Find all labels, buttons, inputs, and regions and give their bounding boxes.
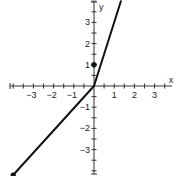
x-tick-label: 2 — [132, 90, 137, 100]
y-tick-label: 3 — [85, 17, 90, 27]
y-tick-label: −2 — [80, 123, 90, 133]
y-tick-label: 1 — [85, 60, 90, 70]
y-axis-label: y — [99, 2, 104, 12]
x-tick-label: −3 — [26, 90, 36, 100]
closed-point — [92, 62, 97, 67]
y-tick-label: 2 — [85, 39, 90, 49]
curves — [13, 1, 121, 175]
x-tick-label: −1 — [67, 90, 77, 100]
x-tick-label: 3 — [152, 90, 157, 100]
x-tick-label: −2 — [46, 90, 56, 100]
y-tick-label: −1 — [80, 102, 90, 112]
function-line — [94, 1, 121, 86]
function-graph: −3−2−1123−3−2−1123xy — [0, 0, 177, 176]
x-axis-label: x — [169, 75, 174, 85]
markers — [11, 62, 97, 176]
y-tick-label: −3 — [80, 145, 90, 155]
x-tick-label: 1 — [112, 90, 117, 100]
